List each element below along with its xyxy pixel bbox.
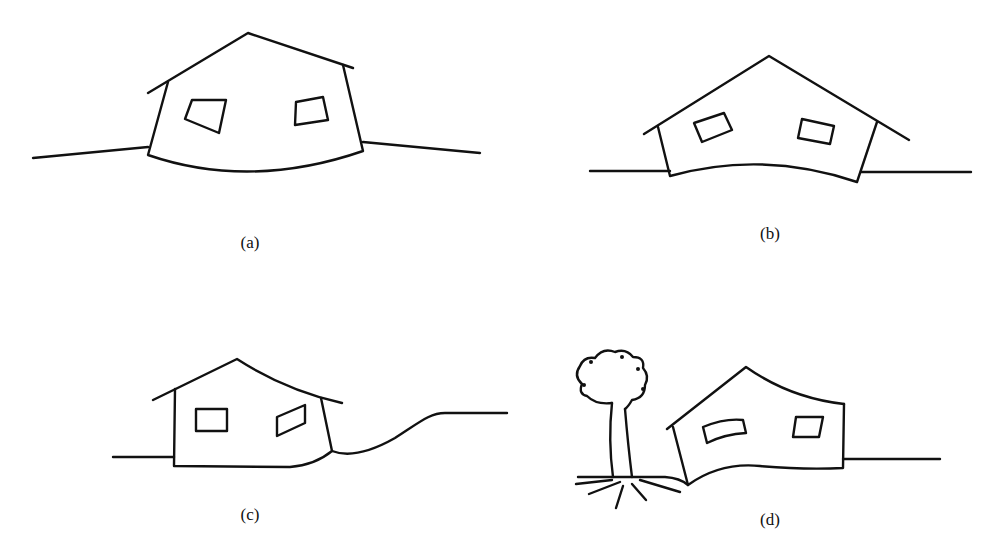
panel-label-a: (a) [241,233,260,253]
roof [153,359,342,403]
window-right [798,119,834,144]
window-right [295,97,328,125]
ground-right [363,142,480,153]
window-left [694,113,732,142]
panel-label-b: (b) [760,224,780,244]
panel-a-drawing [33,33,480,172]
figure-canvas [0,0,992,543]
house-walls [148,65,363,172]
window-right [277,405,305,436]
panel-label-c: (c) [241,505,260,525]
roof [667,367,844,429]
roof [644,56,909,140]
window-left [185,100,226,133]
panel-d-drawing [576,350,940,508]
house-walls [658,122,877,182]
window-left [196,409,227,431]
ground-slope [332,413,507,454]
window-right [793,417,823,437]
panel-b-drawing [590,56,971,182]
window-left [703,420,746,443]
house-walls [174,389,332,467]
tree-icon [577,350,647,477]
panel-label-d: (d) [760,510,780,530]
roof [148,33,353,93]
tree-roots [576,480,680,508]
panel-c-drawing [113,359,507,467]
ground-left [33,147,148,158]
